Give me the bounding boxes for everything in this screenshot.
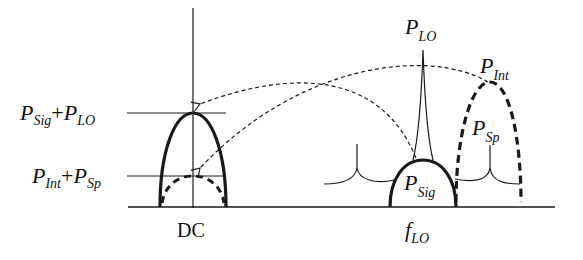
label-p-sig: PSig	[403, 170, 435, 200]
label-dc: DC	[177, 219, 205, 241]
lo-spike	[413, 50, 433, 160]
label-p-int: PInt	[479, 53, 510, 83]
spectrum-diagram: PSig+PLO PInt+PSp DC PLO PInt PSp PSig f…	[0, 0, 583, 260]
spur-left	[324, 144, 395, 184]
arrow-to-int-sp	[200, 66, 488, 168]
label-sig-plus-lo: PSig+PLO	[19, 100, 95, 128]
label-p-sp: PSp	[471, 115, 499, 145]
arrow-to-sig-lo	[200, 83, 416, 158]
label-p-lo: PLO	[404, 14, 436, 44]
label-f-lo: fLO	[405, 217, 429, 246]
label-int-plus-sp: PInt+PSp	[31, 163, 101, 191]
spur-right	[455, 145, 520, 184]
